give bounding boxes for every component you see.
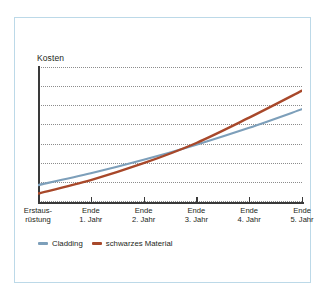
legend-color-swatch: [92, 242, 102, 244]
x-axis-tick-label: Ende2. Jahr: [117, 206, 171, 225]
legend-label: schwarzes Material: [106, 239, 173, 248]
tick-label-line1: Ende: [169, 206, 223, 215]
tick-label-line1: Erstaus-: [11, 206, 65, 215]
legend-item[interactable]: schwarzes Material: [92, 239, 173, 248]
x-axis-tick-end: [302, 197, 303, 203]
legend-color-swatch: [38, 242, 48, 244]
x-axis-tick-label: Ende5. Jahr: [275, 206, 327, 225]
legend-label: Cladding: [52, 239, 83, 248]
tick-label-line2: 2. Jahr: [117, 215, 171, 224]
figure-canvas: Kosten Erstaus-rüstungEnde1. JahrEnde2. …: [0, 0, 327, 302]
tick-label-line1: Ende: [222, 206, 276, 215]
x-axis-tick: [91, 197, 92, 203]
tick-label-line2: 3. Jahr: [169, 215, 223, 224]
series-svg: [38, 67, 302, 202]
x-axis-tick: [144, 197, 145, 203]
chart-legend: Claddingschwarzes Material: [38, 239, 173, 248]
tick-label-line2: 1. Jahr: [64, 215, 118, 224]
legend-item[interactable]: Cladding: [38, 239, 83, 248]
tick-label-line1: Ende: [117, 206, 171, 215]
tick-label-line2: 5. Jahr: [275, 215, 327, 224]
x-axis-tick-label: Ende4. Jahr: [222, 206, 276, 225]
plot-series-area: [38, 67, 302, 202]
x-axis-tick-label: Erstaus-rüstung: [11, 206, 65, 225]
x-axis-tick: [196, 197, 197, 203]
x-axis-tick: [38, 197, 39, 203]
x-axis-tick-label: Ende1. Jahr: [64, 206, 118, 225]
y-axis-label: Kosten: [37, 53, 64, 63]
series-line-schwarzes-material: [38, 91, 302, 194]
tick-label-line2: rüstung: [11, 215, 65, 224]
x-axis-tick: [249, 197, 250, 203]
tick-label-line1: Ende: [64, 206, 118, 215]
x-axis-line: [38, 202, 304, 204]
tick-label-line2: 4. Jahr: [222, 215, 276, 224]
line-chart: Kosten Erstaus-rüstungEnde1. JahrEnde2. …: [0, 0, 327, 302]
x-axis-tick-labels: Erstaus-rüstungEnde1. JahrEnde2. JahrEnd…: [38, 206, 304, 232]
tick-label-line1: Ende: [275, 206, 327, 215]
x-axis-tick-label: Ende3. Jahr: [169, 206, 223, 225]
series-line-cladding: [38, 109, 302, 185]
